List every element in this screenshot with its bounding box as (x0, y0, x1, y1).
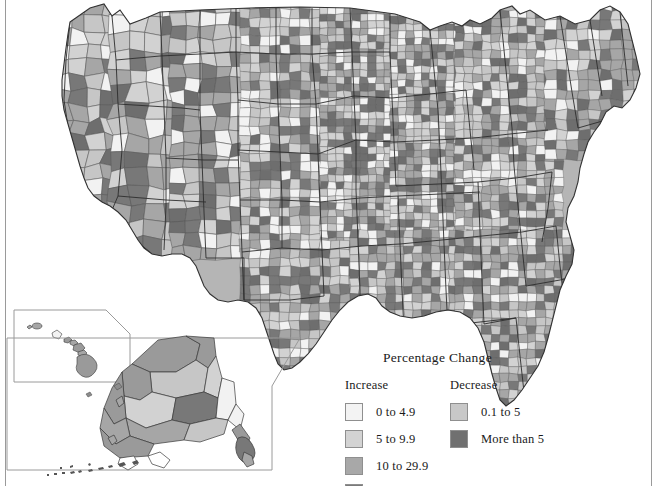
county-polygon (309, 10, 320, 19)
county-polygon (71, 181, 87, 196)
county-polygon (490, 246, 500, 254)
county-polygon (644, 131, 656, 141)
county-polygon (310, 216, 321, 226)
county-polygon (536, 194, 546, 202)
county-polygon (260, 294, 269, 303)
county-polygon (108, 31, 130, 53)
county-polygon (509, 335, 518, 343)
county-polygon (553, 317, 563, 325)
county-polygon (621, 131, 634, 141)
county-polygon (259, 72, 270, 81)
county-polygon (599, 130, 612, 140)
county-polygon (327, 231, 336, 238)
county-polygon (588, 20, 600, 30)
county-polygon (336, 203, 345, 211)
county-polygon (336, 147, 345, 154)
county-polygon (508, 286, 518, 294)
county-polygon (368, 28, 377, 35)
county-polygon (398, 157, 406, 165)
legend-item-increase-3[interactable]: 30 or more (345, 481, 433, 486)
county-polygon (68, 44, 88, 59)
county-polygon (562, 285, 572, 294)
county-polygon (376, 203, 384, 210)
county-polygon (492, 218, 500, 227)
hawaii-inset[interactable] (14, 310, 130, 382)
county-polygon (446, 100, 454, 107)
county-polygon (490, 277, 500, 286)
county-polygon (344, 182, 353, 190)
county-polygon (336, 189, 345, 197)
county-polygon (328, 0, 337, 7)
county-polygon (483, 309, 492, 318)
county-polygon (280, 63, 290, 73)
county-polygon (535, 326, 545, 335)
county-polygon (385, 326, 396, 335)
county-polygon (319, 257, 330, 267)
county-polygon (566, 29, 578, 41)
county-polygon (279, 73, 290, 82)
county-polygon (482, 246, 492, 254)
county-polygon (455, 129, 464, 138)
legend-item-increase-2[interactable]: 10 to 29.9 (345, 454, 433, 478)
legend-item-decrease-0[interactable]: 0.1 to 5 (450, 400, 544, 424)
county-polygon (280, 8, 291, 18)
county-polygon (299, 8, 310, 18)
county-polygon (250, 275, 261, 286)
legend-item-decrease-1[interactable]: More than 5 (450, 427, 544, 451)
county-polygon (563, 334, 573, 342)
county-polygon (481, 122, 491, 130)
county-polygon (320, 119, 328, 127)
county-polygon (490, 114, 500, 122)
county-polygon (508, 254, 519, 262)
county-polygon (491, 66, 500, 74)
county-polygon (367, 318, 377, 327)
county-polygon (240, 81, 251, 90)
county-polygon (367, 70, 376, 77)
county-polygon (344, 105, 352, 112)
county-polygon (290, 44, 301, 54)
legend-item-increase-0[interactable]: 0 to 4.9 (345, 400, 433, 424)
county-polygon (86, 222, 102, 240)
county-polygon (517, 130, 527, 139)
county-polygon (344, 63, 352, 71)
county-polygon (389, 157, 399, 165)
county-polygon (335, 175, 344, 182)
county-polygon (414, 30, 423, 38)
county-polygon (216, 220, 231, 235)
county-polygon (446, 94, 454, 102)
county-polygon (279, 338, 291, 349)
legend-item-increase-1[interactable]: 5 to 9.9 (345, 427, 433, 451)
county-polygon (535, 302, 546, 310)
county-polygon (250, 348, 259, 357)
county-polygon (501, 49, 510, 58)
county-polygon (336, 216, 344, 224)
county-polygon (250, 108, 261, 118)
county-polygon (384, 0, 393, 7)
county-polygon (526, 230, 536, 238)
county-polygon (309, 393, 321, 403)
county-polygon (554, 325, 564, 334)
county-polygon (545, 261, 555, 270)
county-polygon (404, 294, 413, 302)
county-polygon (368, 271, 378, 279)
county-polygon (445, 107, 454, 115)
county-polygon (430, 45, 439, 53)
county-polygon (376, 42, 384, 50)
county-polygon (438, 115, 446, 122)
county-polygon (343, 84, 351, 92)
county-polygon (260, 36, 270, 46)
alaska-inset[interactable] (7, 336, 300, 476)
county-polygon (413, 143, 422, 150)
county-polygon (422, 206, 430, 213)
county-polygon (368, 105, 377, 113)
county-polygon (491, 229, 500, 238)
county-polygon (240, 71, 250, 82)
county-polygon (632, 19, 644, 30)
county-polygon (368, 21, 377, 29)
county-polygon (491, 335, 500, 343)
county-polygon (336, 161, 344, 169)
county-polygon (125, 167, 150, 186)
county-polygon (463, 41, 474, 50)
county-polygon (491, 161, 501, 170)
county-polygon (290, 8, 300, 18)
